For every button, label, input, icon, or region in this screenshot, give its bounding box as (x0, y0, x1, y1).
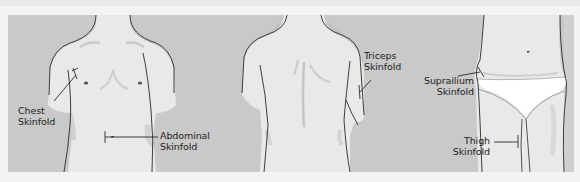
skinfold-sites-figure: Chest Skinfold Abdominal Skinfold Tricep… (0, 0, 580, 182)
thigh-label-line1: Thigh (428, 135, 490, 146)
abdominal-label-line1: Abdominal (160, 130, 210, 141)
triceps-label-line2: Skinfold (364, 61, 401, 72)
abdominal-skinfold-label: Abdominal Skinfold (160, 130, 210, 152)
thigh-label-line2: Skinfold (428, 146, 490, 157)
triceps-label-line1: Triceps (364, 50, 401, 61)
back-torso-figure (242, 15, 371, 172)
suprailium-label-line2: Skinfold (416, 86, 474, 97)
illustration-panel: Chest Skinfold Abdominal Skinfold Tricep… (8, 15, 574, 172)
chest-skinfold-label: Chest Skinfold (18, 105, 55, 127)
triceps-skinfold-label: Triceps Skinfold (364, 50, 401, 72)
front-torso-figure (48, 15, 176, 172)
abdominal-label-line2: Skinfold (160, 141, 210, 152)
top-border-strip (0, 0, 580, 6)
chest-label-line2: Skinfold (18, 116, 55, 127)
suprailium-label-line1: Suprailium (416, 75, 474, 86)
thigh-skinfold-label: Thigh Skinfold (428, 135, 490, 157)
suprailium-skinfold-label: Suprailium Skinfold (416, 75, 474, 97)
chest-label-line1: Chest (18, 105, 55, 116)
